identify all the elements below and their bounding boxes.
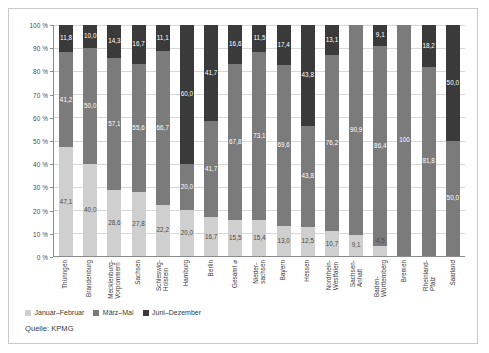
bar-segment[interactable]: 22,2 [156,205,170,256]
bar-column[interactable]: 16,667,815,5 [223,25,247,256]
stacked-bar[interactable]: 11,841,247,1 [59,25,73,256]
bar-column[interactable]: 50,050,0 [441,25,465,256]
stacked-bar[interactable]: 13,176,210,7 [325,25,339,256]
bar-value-label: 76,2 [326,140,338,146]
bar-column[interactable]: 11,573,115,4 [247,25,271,256]
bar-segment[interactable]: 14,3 [107,25,121,58]
bar-value-label: 41,7 [205,166,217,172]
bar-column[interactable]: 9,186,44,5 [368,25,392,256]
bar-segment[interactable]: 28,6 [107,190,121,256]
stacked-bar[interactable]: 14,357,128,6 [107,25,121,256]
bar-column[interactable]: 13,176,210,7 [320,25,344,256]
bar-segment[interactable]: 13,1 [325,25,339,55]
bar-segment[interactable]: 73,1 [252,52,266,221]
bar-column[interactable]: 11,841,247,1 [54,25,78,256]
stacked-bar[interactable]: 16,667,815,5 [228,25,242,256]
bar-value-label: 73,1 [253,133,265,139]
bar-segment[interactable]: 40,0 [83,164,97,256]
bar-segment[interactable]: 81,8 [422,67,436,256]
bar-segment[interactable]: 50,0 [83,48,97,164]
y-axis-tick-label: 10 % [33,230,48,237]
bar-segment[interactable]: 12,5 [301,227,315,256]
bar-segment[interactable]: 11,8 [59,25,73,52]
stacked-bar[interactable]: 17,469,613,0 [277,25,291,256]
stacked-bar[interactable]: 41,741,716,7 [204,25,218,256]
bar-column[interactable]: 90,99,1 [344,25,368,256]
legend-item[interactable]: März–Mai [93,309,133,316]
bar-segment[interactable]: 13,0 [277,226,291,256]
bar-column[interactable]: 100 [392,25,416,256]
y-axis-tick-label: 100 % [29,22,48,29]
bar-segment[interactable]: 20,0 [180,210,194,256]
stacked-bar[interactable]: 43,843,812,5 [301,25,315,256]
x-axis-label: Gesamt ⌀ [231,260,238,288]
bar-segment[interactable]: 18,2 [422,25,436,67]
stacked-bar[interactable]: 90,99,1 [349,25,363,256]
bar-segment[interactable]: 76,2 [325,55,339,231]
bar-segment[interactable]: 10,7 [325,231,339,256]
bar-segment[interactable]: 43,8 [301,25,315,126]
bar-column[interactable]: 17,469,613,0 [272,25,296,256]
bar-value-label: 100 [399,137,410,143]
bar-value-label: 27,8 [132,221,144,227]
bar-value-label: 17,4 [277,42,289,48]
bar-column[interactable]: 14,357,128,6 [102,25,126,256]
x-axis-label: Hamburg [183,260,190,286]
stacked-bar[interactable]: 11,573,115,4 [252,25,266,256]
bar-segment[interactable]: 69,6 [277,65,291,226]
stacked-bar[interactable]: 18,281,8 [422,25,436,256]
bar-segment[interactable]: 16,7 [132,25,146,64]
bar-segment[interactable]: 20,0 [180,164,194,210]
bar-segment[interactable]: 41,7 [204,121,218,217]
bar-segment[interactable]: 41,2 [59,52,73,147]
bar-value-label: 9,1 [352,242,361,248]
bar-segment[interactable]: 41,7 [204,25,218,121]
bar-segment[interactable]: 17,4 [277,25,291,65]
bar-segment[interactable]: 16,6 [228,25,242,63]
bar-column[interactable]: 10,050,040,0 [78,25,102,256]
bar-column[interactable]: 11,166,722,2 [151,25,175,256]
bar-segment[interactable]: 11,1 [156,25,170,51]
bar-segment[interactable]: 15,4 [252,220,266,256]
legend-item[interactable]: Januar–Februar [25,309,84,316]
legend-item[interactable]: Juni–Dezember [143,309,202,316]
bar-segment[interactable]: 86,4 [373,46,387,246]
bar-segment[interactable]: 47,1 [59,147,73,256]
bar-segment[interactable]: 4,5 [373,246,387,256]
bar-segment[interactable]: 57,1 [107,58,121,190]
bar-segment[interactable]: 15,5 [228,220,242,256]
bar-segment[interactable]: 100 [397,25,411,256]
bar-segment[interactable]: 10,0 [83,25,97,48]
x-axis-label-cell: Schleswig-Holstein [150,259,174,305]
bar-segment[interactable]: 66,7 [156,51,170,205]
y-axis-tick-mark [50,71,53,72]
bar-segment[interactable]: 50,0 [446,141,460,257]
bar-segment[interactable]: 67,8 [228,64,242,221]
bar-segment[interactable]: 9,1 [349,235,363,256]
stacked-bar[interactable]: 100 [397,25,411,256]
stacked-bar[interactable]: 9,186,44,5 [373,25,387,256]
bar-segment[interactable]: 55,6 [132,64,146,192]
bar-value-label: 15,4 [253,235,265,241]
bar-segment[interactable]: 27,8 [132,192,146,256]
stacked-bar[interactable]: 11,166,722,2 [156,25,170,256]
bar-segment[interactable]: 50,0 [446,25,460,141]
stacked-bar[interactable]: 10,050,040,0 [83,25,97,256]
bar-segment[interactable]: 90,9 [349,25,363,235]
bar-column[interactable]: 43,843,812,5 [296,25,320,256]
bar-segment[interactable]: 60,0 [180,25,194,164]
bar-column[interactable]: 41,741,716,7 [199,25,223,256]
bar-column[interactable]: 16,755,627,8 [127,25,151,256]
stacked-bar[interactable]: 60,020,020,0 [180,25,194,256]
x-axis-label: Hessen [304,260,311,282]
bar-segment[interactable]: 16,7 [204,217,218,256]
bar-segment[interactable]: 9,1 [373,25,387,46]
bar-segment[interactable]: 43,8 [301,126,315,227]
bar-segment[interactable]: 11,5 [252,25,266,52]
bar-column[interactable]: 18,281,8 [417,25,441,256]
stacked-bar[interactable]: 50,050,0 [446,25,460,256]
bar-column[interactable]: 60,020,020,0 [175,25,199,256]
y-axis-tick-mark [50,211,53,212]
legend-swatch-icon [143,310,149,316]
stacked-bar[interactable]: 16,755,627,8 [132,25,146,256]
